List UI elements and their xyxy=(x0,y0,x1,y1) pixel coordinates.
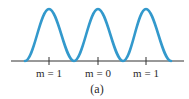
figure-caption: (a) xyxy=(90,82,103,97)
intensity-curve xyxy=(25,9,171,61)
tick-label-m1-right: m = 1 xyxy=(133,67,159,79)
tick-label-m1-left: m = 1 xyxy=(36,67,62,79)
tick-label-m0: m = 0 xyxy=(85,67,111,79)
